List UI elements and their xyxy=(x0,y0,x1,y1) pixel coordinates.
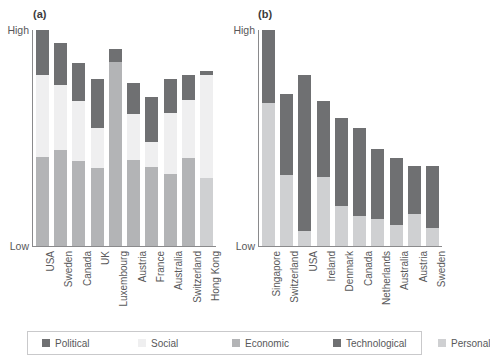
panel-a-x-axis xyxy=(32,246,216,247)
legend-swatch-icon xyxy=(138,339,146,347)
panel-a-plot-area xyxy=(33,30,216,246)
legend-swatch-icon xyxy=(438,339,446,347)
bar-segment xyxy=(280,175,293,246)
bar-segment xyxy=(200,178,213,246)
bar-segment xyxy=(91,79,104,128)
bar-slot xyxy=(51,30,69,246)
x-tick-label-slot: Hong Kong xyxy=(198,249,216,317)
stacked-bar xyxy=(164,56,177,246)
bar-slot xyxy=(405,30,423,246)
panel-b-x-tick-labels: SingaporeSwitzerlandUSAIrelandDenmarkCan… xyxy=(259,249,442,317)
bar-segment xyxy=(91,168,104,246)
bar-segment xyxy=(317,177,330,246)
bar-segment xyxy=(426,228,439,246)
bar-segment xyxy=(182,158,195,246)
x-tick-label: Hong Kong xyxy=(211,251,221,301)
bar-segment xyxy=(280,94,293,176)
x-tick-label-slot: USA xyxy=(33,249,51,317)
bar-segment xyxy=(127,114,140,159)
legend-swatch-icon xyxy=(42,339,50,347)
bar-segment xyxy=(72,101,85,161)
bar-segment xyxy=(390,158,403,226)
stacked-bar xyxy=(353,86,366,246)
bar-segment xyxy=(145,167,158,246)
bar-segment xyxy=(353,216,366,246)
bar-slot xyxy=(33,30,51,246)
bar-segment xyxy=(164,79,177,113)
stacked-bar xyxy=(298,54,311,246)
stacked-bar xyxy=(182,54,195,246)
x-tick-label-slot: Singapore xyxy=(259,249,277,317)
legend: PoliticalSocialEconomicTechnologicalPers… xyxy=(27,331,422,355)
bar-segment xyxy=(200,75,213,178)
x-tick-label: Sweden xyxy=(437,251,447,287)
stacked-bar xyxy=(426,114,439,246)
bar-slot xyxy=(161,30,179,246)
stacked-bar xyxy=(127,58,140,246)
stacked-bar xyxy=(200,52,213,246)
panel-b-x-axis xyxy=(258,246,442,247)
bar-slot xyxy=(143,30,161,246)
bar-segment xyxy=(262,30,275,103)
bar-segment xyxy=(371,149,384,218)
legend-item-political: Political xyxy=(42,332,89,354)
bar-segment xyxy=(72,63,85,101)
bar-segment xyxy=(127,160,140,246)
x-tick-label-slot: France xyxy=(143,249,161,317)
legend-label: Political xyxy=(55,338,89,349)
bar-segment xyxy=(145,142,158,167)
bar-segment xyxy=(72,161,85,246)
legend-item-technological: Technological xyxy=(333,332,407,354)
x-tick-label-slot: Luxembourg xyxy=(106,249,124,317)
bar-segment xyxy=(36,75,49,157)
bar-segment xyxy=(164,113,177,174)
bar-slot xyxy=(198,30,216,246)
x-tick-label-slot: UK xyxy=(88,249,106,317)
x-tick-label-slot: Netherlands xyxy=(369,249,387,317)
bar-segment xyxy=(408,166,421,215)
legend-swatch-icon xyxy=(333,339,341,347)
x-tick-label-slot: Switzerland xyxy=(277,249,295,317)
x-tick-label-slot: Australia xyxy=(387,249,405,317)
bar-slot xyxy=(124,30,142,246)
x-tick-label-slot: Austria xyxy=(405,249,423,317)
bar-segment xyxy=(298,231,311,246)
stacked-bar xyxy=(335,80,348,246)
panel-b-label: (b) xyxy=(258,8,272,20)
panel-a-tick-low: Low xyxy=(0,240,29,252)
x-tick-label-slot: Canada xyxy=(70,249,88,317)
bar-segment xyxy=(426,166,439,228)
x-tick-label-slot: Sweden xyxy=(51,249,69,317)
bar-segment xyxy=(182,75,195,100)
stacked-bar xyxy=(72,47,85,246)
x-tick-label-slot: Sweden xyxy=(424,249,442,317)
bar-slot xyxy=(424,30,442,246)
legend-label: Economic xyxy=(245,338,289,349)
bar-segment xyxy=(262,103,275,246)
bar-slot xyxy=(106,30,124,246)
bar-segment xyxy=(335,118,348,206)
legend-label: Technological xyxy=(346,338,407,349)
panel-b-tick-high: High xyxy=(225,24,255,36)
bar-segment xyxy=(353,128,366,216)
bar-segment xyxy=(36,30,49,75)
bar-slot xyxy=(296,30,314,246)
bar-segment xyxy=(298,75,311,231)
stacked-bar xyxy=(109,49,122,246)
legend-item-personal: Personal xyxy=(438,332,490,354)
panel-b-tick-low: Low xyxy=(225,240,255,252)
panel-a-x-tick-labels: USASwedenCanadaUKLuxembourgAustriaFrance… xyxy=(33,249,216,317)
bar-segment xyxy=(317,101,330,177)
panel-a: (a) High Low USASwedenCanadaUKLuxembourg… xyxy=(0,0,226,320)
bar-slot xyxy=(350,30,368,246)
x-tick-label-slot: Canada xyxy=(350,249,368,317)
stacked-bar xyxy=(317,69,330,246)
bar-segment xyxy=(54,85,67,150)
stacked-bar xyxy=(280,65,293,246)
stacked-bar xyxy=(145,67,158,246)
x-tick-label-slot: Switzerland xyxy=(179,249,197,317)
bar-segment xyxy=(54,43,67,85)
bar-segment xyxy=(371,219,384,246)
bar-segment xyxy=(145,97,158,142)
